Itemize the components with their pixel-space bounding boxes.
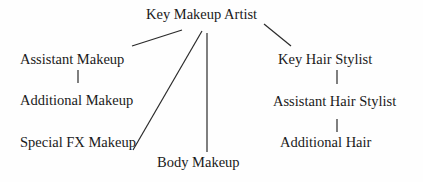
node-key-hair-stylist: Key Hair Stylist — [278, 52, 372, 67]
node-assistant-makeup: Assistant Makeup — [20, 52, 124, 67]
org-chart-diagram: Key Makeup Artist Assistant Makeup Addit… — [0, 0, 423, 182]
node-special-fx-makeup: Special FX Makeup — [20, 135, 136, 150]
edge-key-makeup-to-assistant-makeup — [132, 30, 182, 46]
node-assistant-hair-stylist: Assistant Hair Stylist — [273, 94, 396, 109]
edge-key-makeup-to-key-hair — [264, 24, 291, 46]
node-additional-makeup: Additional Makeup — [20, 93, 133, 108]
node-key-makeup-artist: Key Makeup Artist — [146, 7, 257, 22]
node-body-makeup: Body Makeup — [157, 155, 240, 170]
node-additional-hair: Additional Hair — [280, 135, 371, 150]
edge-key-makeup-to-special-fx — [133, 31, 202, 150]
